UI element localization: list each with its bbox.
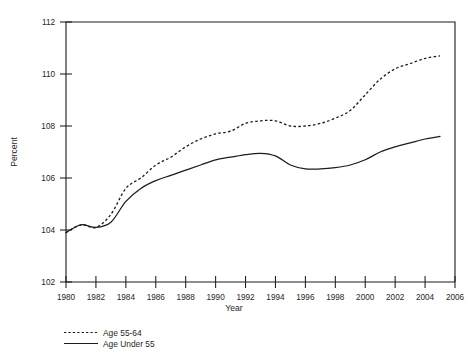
y-tick-label: 112	[42, 18, 55, 27]
x-tick-label: 2006	[446, 293, 465, 302]
chart-legend: Age 55-64 Age Under 55	[64, 328, 155, 349]
x-tick-label: 1996	[296, 293, 315, 302]
line-chart-plot: 102104106108110112 198019821984198619881…	[0, 0, 468, 351]
legend-label-age-55-64: Age 55-64	[103, 328, 142, 338]
x-tick-label: 1982	[87, 293, 106, 302]
y-axis-ticks: 102104106108110112	[41, 18, 72, 287]
x-axis-ticks: 1980198219841986198819901992199419961998…	[57, 276, 465, 302]
series-line-age-under-55	[66, 136, 440, 232]
x-tick-label: 1988	[177, 293, 196, 302]
chart-title	[0, 0, 468, 4]
x-tick-label: 2000	[356, 293, 375, 302]
plot-frame	[66, 22, 455, 282]
x-tick-label: 1998	[326, 293, 345, 302]
y-axis-title: Percent	[9, 137, 19, 167]
x-axis-title: Year	[225, 303, 243, 313]
x-tick-label: 2004	[416, 293, 435, 302]
x-tick-label: 1984	[117, 293, 136, 302]
x-tick-label: 1986	[147, 293, 166, 302]
legend-label-age-under-55: Age Under 55	[103, 339, 155, 349]
x-tick-label: 2002	[386, 293, 405, 302]
x-tick-label: 1990	[207, 293, 226, 302]
x-tick-label: 1994	[266, 293, 285, 302]
chart-figure: 102104106108110112 198019821984198619881…	[0, 0, 468, 351]
y-tick-label: 110	[42, 70, 55, 79]
x-tick-label: 1992	[236, 293, 255, 302]
x-tick-label: 1980	[57, 293, 76, 302]
y-tick-label: 104	[41, 226, 55, 235]
y-tick-label: 102	[41, 278, 55, 287]
y-tick-label: 108	[41, 122, 55, 131]
y-tick-label: 106	[41, 174, 55, 183]
plot-frame-path	[66, 22, 455, 282]
